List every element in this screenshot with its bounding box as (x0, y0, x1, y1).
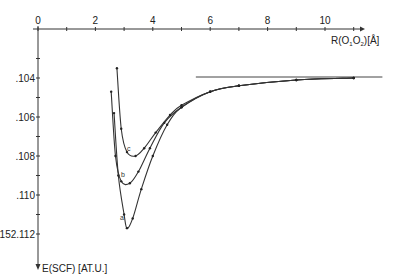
data-point (134, 155, 136, 157)
x-axis: 0246810 (33, 15, 365, 32)
data-point (169, 114, 171, 116)
y-tick-label: .104 (16, 73, 36, 84)
data-point (143, 147, 145, 149)
data-point (140, 188, 142, 190)
data-point (209, 90, 211, 92)
curve-a (114, 78, 354, 228)
energy-curve-chart: 0246810 .104.106.108.110-152.112 R(O1O2)… (0, 0, 395, 280)
curves-group (110, 67, 355, 229)
data-point (152, 155, 154, 157)
data-point (113, 112, 115, 114)
data-point (120, 180, 122, 182)
y-tick-label: .108 (16, 151, 36, 162)
data-point (166, 124, 168, 126)
data-point (238, 85, 240, 87)
data-point (180, 104, 182, 106)
x-axis-title: R(O1O2)[Å] (331, 34, 380, 47)
y-axis: .104.106.108.110-152.112 (0, 26, 41, 270)
data-point (114, 155, 116, 157)
x-tick-label: 6 (207, 15, 213, 26)
x-tick-label: 4 (150, 15, 156, 26)
data-point (154, 131, 156, 133)
data-point (295, 79, 297, 81)
data-point (353, 77, 355, 79)
x-tick-label: 0 (35, 15, 41, 26)
x-tick-label: 8 (265, 15, 271, 26)
data-point (126, 227, 128, 229)
data-point (132, 217, 134, 219)
data-point (129, 182, 131, 184)
y-tick-label: .106 (16, 112, 36, 123)
x-tick-label: 10 (319, 15, 331, 26)
curve-label-b: b (121, 171, 125, 178)
data-point (149, 147, 151, 149)
curve-label-c: c (127, 145, 131, 152)
data-point (116, 67, 118, 69)
y-tick-label: -152.112 (0, 229, 35, 240)
data-point (137, 170, 139, 172)
data-point (110, 90, 112, 92)
y-tick-label: .110 (16, 190, 35, 201)
curve-label-a: a (120, 214, 124, 221)
y-axis-title: E(SCF) [AT.U.] (42, 263, 108, 274)
x-tick-label: 2 (93, 15, 99, 26)
data-point (120, 128, 122, 130)
